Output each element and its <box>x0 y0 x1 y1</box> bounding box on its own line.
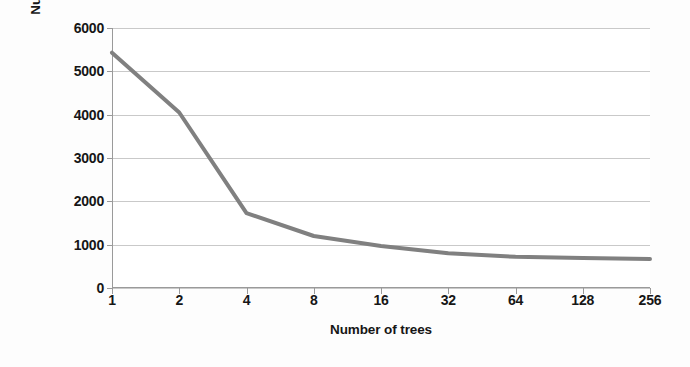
chart-figure: Number of misclassification 010002000300… <box>0 0 690 367</box>
x-tick-label: 128 <box>548 292 618 309</box>
misclassification-line <box>112 53 650 259</box>
x-tick-label: 8 <box>279 292 349 309</box>
y-tick-label: 2000 <box>40 194 104 208</box>
x-tick-label: 256 <box>615 292 685 309</box>
x-tick-label: 64 <box>481 292 551 309</box>
x-tick-label: 4 <box>212 292 282 309</box>
x-tick-label: 1 <box>77 292 147 309</box>
x-tick-label: 16 <box>346 292 416 309</box>
x-tick-label: 32 <box>413 292 483 309</box>
y-tick-label: 3000 <box>40 151 104 165</box>
data-series-line <box>112 28 650 288</box>
y-tick-label: 4000 <box>40 108 104 122</box>
y-tick-label: 1000 <box>40 238 104 252</box>
plot-area <box>112 28 650 288</box>
y-tick-label: 6000 <box>40 21 104 35</box>
x-axis-title: Number of trees <box>112 322 650 337</box>
y-tick-label: 5000 <box>40 64 104 78</box>
x-axis-tick-labels: 1248163264128256 <box>112 292 650 314</box>
x-tick-label: 2 <box>144 292 214 309</box>
y-axis-tick-labels: 0100020003000400050006000 <box>40 28 104 288</box>
